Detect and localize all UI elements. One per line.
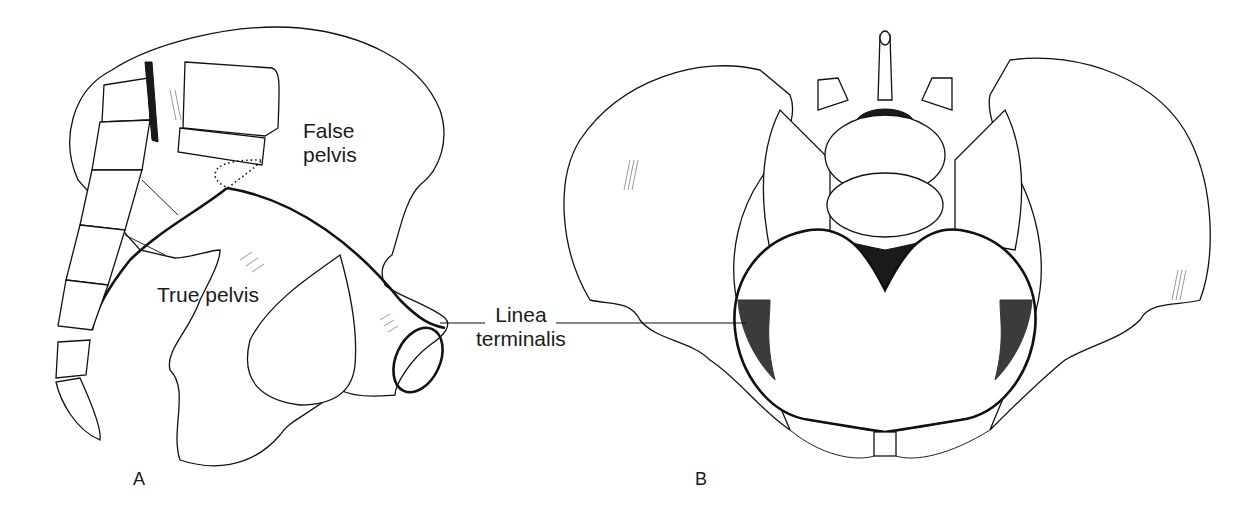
panel-b-drawing bbox=[564, 31, 1210, 458]
false-pelvis-label: False pelvis bbox=[303, 119, 357, 167]
panel-a-letter: A bbox=[133, 469, 145, 490]
true-pelvis-label: True pelvis bbox=[157, 283, 259, 307]
linea-terminalis-label: Linea terminalis bbox=[476, 303, 566, 351]
pelvis-figure: False pelvis True pelvis Linea terminali… bbox=[0, 0, 1251, 520]
pelvis-drawing bbox=[0, 0, 1251, 520]
panel-b-letter: B bbox=[695, 469, 707, 490]
panel-a-drawing bbox=[56, 27, 452, 466]
